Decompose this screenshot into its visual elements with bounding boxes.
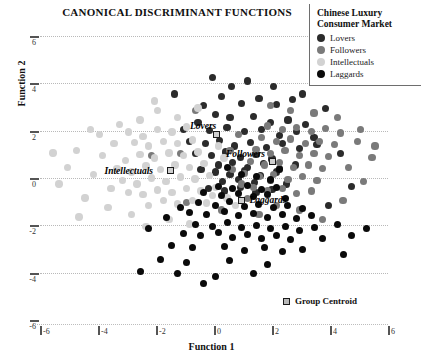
data-point-intellectuals — [180, 152, 187, 159]
data-point-laggards — [267, 225, 274, 232]
legend-label-followers: Followers — [330, 45, 366, 55]
data-point-laggards — [311, 224, 318, 231]
data-point-lovers — [228, 83, 235, 90]
data-point-followers — [337, 129, 344, 136]
data-point-intellectuals — [154, 126, 161, 133]
y-tick-label-6: 6 — [20, 38, 36, 47]
data-point-intellectuals — [116, 121, 123, 128]
group-centroid-swatch-icon — [283, 298, 290, 305]
data-point-laggards — [261, 244, 268, 251]
data-point-laggards — [180, 230, 187, 237]
data-point-lovers — [238, 100, 245, 107]
data-point-laggards — [299, 246, 306, 253]
data-point-laggards — [224, 164, 231, 171]
data-point-followers — [299, 173, 306, 180]
data-point-intellectuals — [49, 149, 56, 156]
legend-swatch-laggards-icon — [317, 70, 325, 78]
data-point-followers — [310, 109, 317, 116]
y-tick-label--6: -6 — [20, 322, 36, 331]
y-tick-label-2: 2 — [20, 133, 36, 142]
legend-item-laggards[interactable]: Laggards — [317, 68, 419, 80]
data-point-intellectuals — [191, 175, 198, 182]
data-point-laggards — [363, 225, 370, 232]
data-point-laggards — [250, 210, 257, 217]
data-point-laggards — [264, 261, 271, 268]
data-point-laggards — [340, 251, 347, 258]
data-point-laggards — [279, 248, 286, 255]
data-point-intellectuals — [145, 142, 152, 149]
data-point-laggards — [293, 215, 300, 222]
data-point-laggards — [212, 273, 219, 280]
data-point-intellectuals — [168, 128, 175, 135]
data-point-laggards — [221, 208, 228, 215]
data-point-laggards — [244, 182, 251, 189]
centroid-marker-lovers — [213, 131, 220, 138]
data-point-lovers — [255, 95, 262, 102]
data-point-lovers — [197, 166, 204, 173]
data-point-intellectuals — [131, 139, 138, 146]
data-point-laggards — [229, 234, 236, 241]
legend-swatch-followers-icon — [317, 46, 325, 54]
data-point-followers — [371, 142, 378, 149]
data-point-followers — [354, 138, 361, 145]
data-point-lovers — [302, 121, 309, 128]
data-point-laggards — [253, 222, 260, 229]
data-point-lovers — [218, 93, 225, 100]
data-point-laggards — [258, 235, 265, 242]
legend-title-line1: Chinese Luxury — [317, 8, 419, 19]
data-point-intellectuals — [174, 140, 181, 147]
x-tick-label-2: 2 — [275, 327, 293, 336]
x-tick-label-6: 6 — [391, 327, 409, 336]
data-point-intellectuals — [160, 138, 167, 145]
data-point-laggards — [296, 227, 303, 234]
data-point-lovers — [348, 183, 355, 190]
data-point-laggards — [215, 183, 222, 190]
data-point-intellectuals — [154, 107, 161, 114]
y-axis-title: Function 2 — [16, 49, 27, 119]
data-point-intellectuals — [203, 199, 210, 206]
page-title: CANONICAL DISCRIMINANT FUNCTIONS — [52, 6, 302, 18]
data-point-followers — [267, 102, 274, 109]
data-point-laggards — [273, 184, 280, 191]
data-point-laggards — [221, 243, 228, 250]
x-tick-label--2: -2 — [159, 327, 177, 336]
legend-label-laggards: Laggards — [330, 69, 364, 79]
data-point-followers — [290, 164, 297, 171]
centroid-label-followers: Followers — [226, 149, 265, 159]
centroid-marker-followers — [269, 158, 276, 165]
data-point-laggards — [273, 232, 280, 239]
x-tick-label--4: -4 — [101, 327, 119, 336]
data-point-followers — [310, 150, 317, 157]
legend-item-intellectuals[interactable]: Intellectuals — [317, 56, 419, 68]
data-point-intellectuals — [125, 189, 132, 196]
data-point-laggards — [319, 235, 326, 242]
data-point-laggards — [267, 176, 274, 183]
data-point-laggards — [238, 171, 245, 178]
data-point-lovers — [209, 74, 216, 81]
data-point-laggards — [145, 225, 152, 232]
data-point-laggards — [177, 204, 184, 211]
legend-swatch-lovers-icon — [317, 34, 325, 42]
legend-label-lovers: Lovers — [330, 33, 355, 43]
data-point-lovers — [226, 114, 233, 121]
legend-swatch-intellectuals-icon — [317, 58, 325, 66]
data-point-intellectuals — [160, 197, 167, 204]
data-point-followers — [258, 134, 265, 141]
data-point-intellectuals — [64, 164, 71, 171]
data-point-followers — [339, 197, 346, 204]
legend-label-intellectuals: Intellectuals — [330, 57, 374, 67]
legend-item-lovers[interactable]: Lovers — [317, 32, 419, 44]
legend-item-followers[interactable]: Followers — [317, 44, 419, 56]
data-point-intellectuals — [162, 178, 169, 185]
x-axis-title: Function 1 — [0, 341, 423, 352]
data-point-laggards — [200, 189, 207, 196]
x-tick-2 — [272, 326, 274, 335]
data-point-followers — [368, 154, 375, 161]
x-tick-6 — [388, 326, 390, 335]
data-point-lovers — [322, 105, 329, 112]
data-point-intellectuals — [110, 140, 117, 147]
data-point-lovers — [299, 90, 306, 97]
data-point-laggards — [183, 259, 190, 266]
data-point-intellectuals — [87, 126, 94, 133]
legend-rows: LoversFollowersIntellectualsLaggards — [317, 32, 419, 80]
